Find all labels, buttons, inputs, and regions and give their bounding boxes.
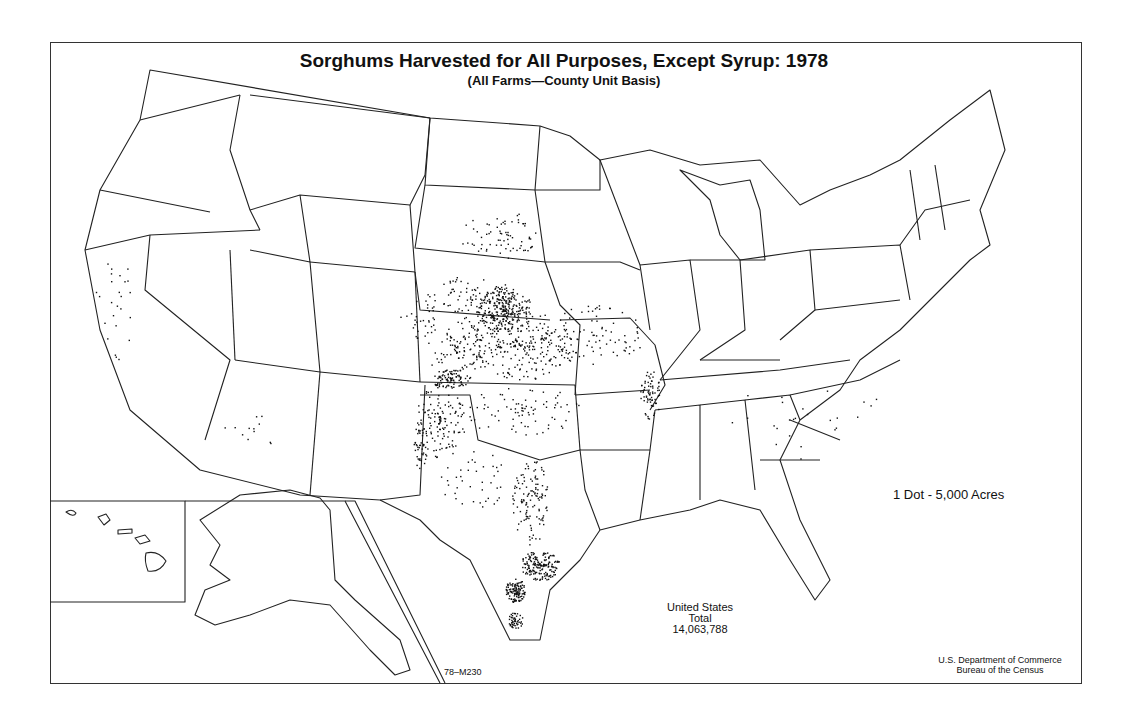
hawaii-inset — [66, 510, 166, 571]
dot-legend: 1 Dot - 5,000 Acres — [893, 487, 1004, 502]
map-title: Sorghums Harvested for All Purposes, Exc… — [0, 50, 1128, 72]
alaska-inset — [195, 490, 410, 675]
us-map — [0, 0, 1128, 726]
map-code: 78–M230 — [444, 667, 482, 677]
inset-frames — [50, 501, 445, 683]
map-subtitle: (All Farms—County Unit Basis) — [0, 73, 1128, 88]
sorghum-dots — [96, 214, 877, 629]
credit-line1: U.S. Department of Commerce — [915, 655, 1085, 665]
us-total-value: 14,063,788 — [630, 624, 770, 635]
credit-line2: Bureau of the Census — [915, 665, 1085, 675]
state-boundaries — [85, 70, 1005, 640]
map-credit: U.S. Department of Commerce Bureau of th… — [915, 655, 1085, 675]
us-outline — [85, 70, 1005, 640]
us-total: United States Total 14,063,788 — [630, 602, 770, 635]
